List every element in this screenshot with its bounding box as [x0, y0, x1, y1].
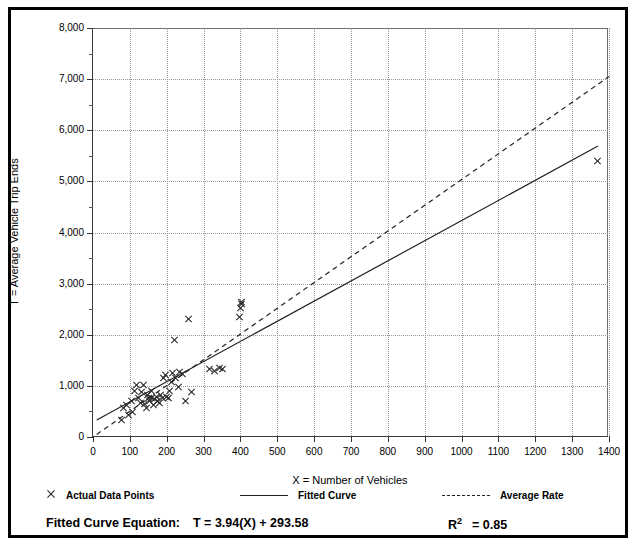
data-point-marker [178, 370, 187, 379]
data-point-marker [593, 156, 602, 165]
x-axis-title: X = Number of Vehicles [292, 474, 407, 486]
x-axis-tick-label: 1300 [561, 447, 583, 457]
x-axis-tick-label: 800 [380, 447, 397, 457]
data-point-marker [187, 388, 196, 397]
r-squared-exponent: 2 [457, 516, 462, 526]
y-axis-title: T = Average Vehicle Trip Ends [8, 158, 20, 305]
legend-label-actual-data-points: Actual Data Points [66, 490, 154, 501]
x-axis-tick-label: 500 [269, 447, 286, 457]
legend-solid-line-icon [240, 495, 288, 496]
equation-value: T = 3.94(X) + 293.58 [193, 516, 308, 530]
data-point-marker [174, 382, 183, 391]
x-axis-tick-label: 700 [343, 447, 360, 457]
r-squared-number: = 0.85 [472, 518, 507, 532]
legend-label-average-rate: Average Rate [500, 490, 564, 501]
x-axis-tick-label: 1100 [488, 447, 510, 457]
y-axis-tick-label: 3,000 [59, 279, 84, 289]
x-axis-tick-label: 1200 [524, 447, 546, 457]
y-axis-tick-label: 6,000 [59, 125, 84, 135]
legend-x-marker-icon [46, 489, 56, 499]
data-point-marker [170, 335, 179, 344]
data-point-marker [235, 312, 244, 321]
x-axis-tick [609, 436, 610, 442]
y-axis-tick-label: 2,000 [59, 330, 84, 340]
y-axis-tick-label: 7,000 [59, 74, 84, 84]
data-point-marker [218, 365, 227, 374]
data-point-marker [184, 315, 193, 324]
x-axis-tick-label: 200 [158, 447, 175, 457]
data-point-marker [128, 408, 137, 417]
data-point-marker [237, 298, 246, 307]
legend-label-fitted-curve: Fitted Curve [298, 490, 356, 501]
chart-legend: Actual Data Points Fitted Curve Average … [0, 489, 636, 507]
gridline-vertical [609, 28, 610, 436]
x-axis-tick-label: 400 [232, 447, 249, 457]
x-axis-tick-label: 600 [306, 447, 323, 457]
chart-canvas: T = Average Vehicle Trip Ends X = Number… [0, 0, 636, 546]
y-axis-tick-label: 4,000 [59, 228, 84, 238]
x-axis-tick-label: 1400 [598, 447, 620, 457]
x-axis-tick-label: 100 [122, 447, 139, 457]
y-axis-tick-label: 1,000 [59, 381, 84, 391]
data-point-marker [165, 386, 174, 395]
fitted-curve-equation: Fitted Curve Equation: T = 3.94(X) + 293… [46, 516, 308, 530]
legend-dashed-line-icon [442, 495, 490, 496]
x-axis-tick-label: 0 [90, 447, 96, 457]
equation-label: Fitted Curve Equation: [46, 516, 180, 530]
y-axis-tick-label: 5,000 [59, 176, 84, 186]
r-squared-value: R2 = 0.85 [448, 516, 507, 532]
x-axis-tick-label: 1000 [450, 447, 472, 457]
plot-area: 0100200300400500600700800900100011001200… [92, 28, 608, 437]
r-squared-prefix: R [448, 518, 457, 532]
data-point-marker [181, 397, 190, 406]
y-axis-tick-label: 8,000 [59, 23, 84, 33]
chart-footer: Fitted Curve Equation: T = 3.94(X) + 293… [0, 516, 636, 538]
x-axis-tick-label: 900 [416, 447, 433, 457]
y-axis-tick [87, 437, 93, 438]
y-axis-tick-label: 0 [78, 432, 84, 442]
x-axis-tick-label: 300 [195, 447, 212, 457]
